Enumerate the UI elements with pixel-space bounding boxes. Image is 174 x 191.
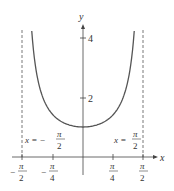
y-tick-label-2: 2 <box>88 93 93 104</box>
svg-text:π: π <box>110 161 115 171</box>
x-axis-arrow-icon <box>153 155 158 159</box>
x-tick-label-neg-pi-4: − π 4 <box>41 161 58 183</box>
svg-text:4: 4 <box>110 173 115 183</box>
svg-text:2: 2 <box>140 173 145 183</box>
svg-text:−: − <box>10 167 15 177</box>
x-tick-label-pi-2: π 2 <box>139 161 148 183</box>
x-axis-label: x <box>159 152 165 163</box>
svg-text:π: π <box>50 161 55 171</box>
svg-text:x = −: x = − <box>24 135 46 145</box>
asymptote-label-right: x = π 2 <box>113 129 141 151</box>
svg-text:π: π <box>133 129 138 139</box>
svg-text:2: 2 <box>133 141 138 151</box>
svg-text:4: 4 <box>50 173 55 183</box>
svg-text:x =: x = <box>113 135 126 145</box>
x-tick-label-pi-4: π 4 <box>109 161 118 183</box>
asymptote-label-left: x = − π 2 <box>24 129 65 151</box>
x-tick-label-neg-pi-2: − π 2 <box>10 161 27 183</box>
y-axis-label: y <box>78 11 84 22</box>
svg-text:2: 2 <box>57 141 62 151</box>
svg-text:2: 2 <box>19 173 24 183</box>
svg-text:π: π <box>57 129 62 139</box>
svg-text:−: − <box>41 167 46 177</box>
y-axis-arrow-icon <box>81 24 85 29</box>
chart: x y 4 2 − π 2 − π 4 π 4 π 2 x = − π 2 x … <box>0 0 174 191</box>
svg-text:π: π <box>19 161 24 171</box>
y-tick-label-4: 4 <box>88 33 93 44</box>
svg-text:π: π <box>140 161 145 171</box>
